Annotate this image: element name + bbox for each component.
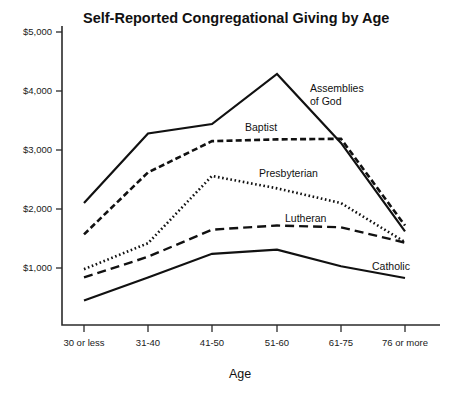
line-chart: Self-Reported Congregational Giving by A… xyxy=(0,0,456,394)
chart-title: Self-Reported Congregational Giving by A… xyxy=(83,10,389,26)
chart-background xyxy=(0,0,456,394)
series-annotation-2: Presbyterian xyxy=(259,167,318,179)
x-axis-title: Age xyxy=(229,367,251,381)
y-axis-label-2000: $2,000 xyxy=(23,203,52,214)
series-annotation-3: Lutheran xyxy=(285,212,327,224)
x-axis-label-5: 76 or more xyxy=(382,337,428,348)
x-axis-label-1: 31-40 xyxy=(136,337,160,348)
y-axis-label-3000: $3,000 xyxy=(23,144,52,155)
x-axis-label-2: 41-50 xyxy=(200,337,224,348)
x-axis-label-4: 61-75 xyxy=(329,337,353,348)
series-annotation-1: Baptist xyxy=(245,121,277,133)
y-axis-label-4000: $4,000 xyxy=(23,85,52,96)
chart-container: Self-Reported Congregational Giving by A… xyxy=(0,0,456,394)
x-axis-label-0: 30 or less xyxy=(63,337,104,348)
x-axis-label-3: 51-60 xyxy=(265,337,289,348)
y-axis-label-1000: $1,000 xyxy=(23,262,52,273)
series-annotation-4: Catholic xyxy=(372,260,410,272)
y-axis-label-5000: $5,000 xyxy=(23,26,52,37)
